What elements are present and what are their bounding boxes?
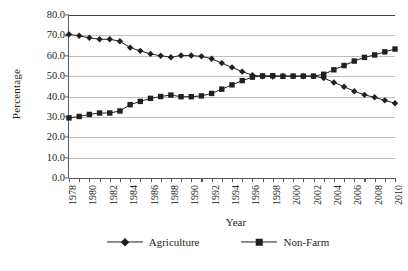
x-tick-mark [273, 178, 274, 182]
data-point-marker [260, 73, 265, 78]
chart-figure: Percentage 80.070.060.050.040.030.020.01… [0, 0, 408, 271]
square-marker-icon [256, 239, 263, 246]
x-tick-label: 1996 [251, 185, 261, 205]
x-tick-mark [110, 178, 111, 182]
x-tick-mark [324, 178, 325, 182]
legend-marker-icon [107, 236, 143, 248]
data-point-marker [188, 52, 194, 58]
x-tick-label: 2004 [333, 185, 343, 205]
data-point-marker [178, 94, 183, 99]
data-point-marker [371, 94, 377, 100]
data-point-marker [361, 92, 367, 98]
data-point-marker [301, 73, 306, 78]
x-tick-label: 1982 [109, 185, 119, 205]
data-point-marker [107, 110, 112, 115]
x-tick-mark [354, 178, 355, 182]
data-point-marker [199, 93, 204, 98]
data-point-marker [321, 72, 326, 77]
data-point-marker [76, 33, 82, 39]
x-tick-label: 2006 [353, 185, 363, 205]
x-tick-mark [375, 178, 376, 182]
x-tick-mark [120, 178, 121, 182]
x-tick-label: 1978 [68, 185, 78, 205]
data-point-marker [66, 115, 71, 120]
x-tick-label: 1994 [231, 185, 241, 205]
x-tick-mark [212, 178, 213, 182]
data-point-marker [392, 100, 398, 106]
data-point-marker [341, 84, 347, 90]
legend-label: Agriculture [149, 236, 200, 248]
data-point-marker [239, 68, 245, 74]
y-tick-label: 30.0 [3, 112, 65, 123]
x-tick-mark [344, 178, 345, 182]
legend-label: Non-Farm [283, 236, 329, 248]
data-point-marker [76, 114, 81, 119]
x-tick-mark [303, 178, 304, 182]
y-tick-label: 50.0 [3, 71, 65, 82]
chart-legend: AgricultureNon-Farm [0, 236, 408, 248]
series-layer [69, 15, 395, 178]
data-point-marker [137, 48, 143, 54]
x-tick-mark [334, 178, 335, 182]
y-tick-label: 20.0 [3, 132, 65, 143]
x-tick-label: 1992 [211, 185, 221, 205]
data-point-marker [168, 54, 174, 60]
data-point-marker [311, 73, 316, 78]
data-point-marker [209, 91, 214, 96]
data-point-marker [86, 35, 92, 41]
legend-entry[interactable]: Non-Farm [241, 236, 329, 248]
data-point-marker [382, 97, 388, 103]
x-tick-mark [385, 178, 386, 182]
data-point-marker [382, 49, 387, 54]
x-tick-mark [171, 178, 172, 182]
data-point-marker [189, 94, 194, 99]
y-tick-label: 10.0 [3, 152, 65, 163]
x-tick-mark [252, 178, 253, 182]
x-tick-mark [364, 178, 365, 182]
data-point-marker [290, 73, 295, 78]
data-point-marker [66, 31, 72, 37]
data-point-marker [127, 44, 133, 50]
plot-area: 80.070.060.050.040.030.020.010.00.0 1978… [68, 15, 395, 178]
x-tick-label: 2000 [292, 185, 302, 205]
data-point-marker [219, 60, 225, 66]
x-tick-mark [130, 178, 131, 182]
x-tick-mark [395, 178, 396, 182]
x-tick-mark [232, 178, 233, 182]
data-point-marker [158, 94, 163, 99]
legend-entry[interactable]: Agriculture [107, 236, 200, 248]
x-tick-label: 2008 [374, 185, 384, 205]
data-point-marker [178, 52, 184, 58]
data-point-marker [107, 36, 113, 42]
data-point-marker [362, 55, 367, 60]
x-tick-mark [263, 178, 264, 182]
x-tick-mark [89, 178, 90, 182]
data-point-marker [138, 99, 143, 104]
data-point-marker [331, 67, 336, 72]
data-point-marker [147, 51, 153, 57]
data-point-marker [392, 46, 397, 51]
y-tick-label: 0.0 [3, 173, 65, 184]
y-tick-label: 80.0 [3, 10, 65, 21]
data-point-marker [117, 108, 122, 113]
diamond-marker-icon [121, 238, 129, 246]
x-tick-mark [151, 178, 152, 182]
data-point-marker [127, 102, 132, 107]
data-point-marker [229, 82, 234, 87]
x-tick-label: 1998 [272, 185, 282, 205]
x-tick-mark [191, 178, 192, 182]
y-tick-label: 60.0 [3, 51, 65, 62]
x-tick-mark [293, 178, 294, 182]
x-tick-mark [242, 178, 243, 182]
data-point-marker [96, 36, 102, 42]
x-tick-label: 1980 [88, 185, 98, 205]
x-tick-label: 2002 [313, 185, 323, 205]
data-point-marker [372, 52, 377, 57]
data-point-marker [148, 96, 153, 101]
x-tick-mark [283, 178, 284, 182]
x-tick-label: 1990 [190, 185, 200, 205]
x-tick-mark [69, 178, 70, 182]
data-point-marker [157, 53, 163, 59]
data-point-marker [270, 73, 275, 78]
x-tick-label: 1984 [129, 185, 139, 205]
